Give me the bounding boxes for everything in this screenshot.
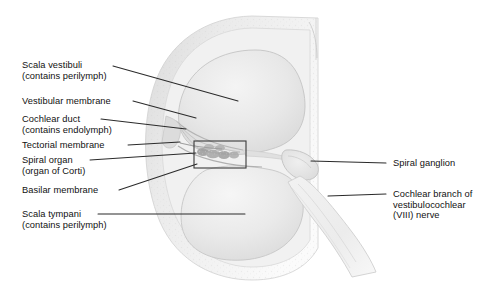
leader-spiral-ganglion <box>311 161 386 163</box>
label-line: Cochlear duct <box>22 114 112 125</box>
label-line: Cochlear branch of <box>393 189 472 200</box>
cochlea-cross-section-figure: Scala vestibuli(contains perilymph)Vesti… <box>0 0 499 293</box>
label-spiral-organ: Spiral organ(organ of Corti) <box>22 155 85 176</box>
leader-cochlear-branch-nerve <box>328 194 386 196</box>
label-cochlear-branch-nerve: Cochlear branch ofvestibulocochlear(VIII… <box>393 189 472 221</box>
label-line: Basilar membrane <box>22 185 98 196</box>
label-line: (VIII) nerve <box>393 210 472 221</box>
label-line: Scala tympani <box>22 209 107 220</box>
label-spiral-ganglion: Spiral ganglion <box>393 158 455 169</box>
label-line: Scala vestibuli <box>22 60 107 71</box>
label-line: Tectorial membrane <box>22 140 105 151</box>
label-line: Spiral organ <box>22 155 85 166</box>
label-line: (contains perilymph) <box>22 220 107 231</box>
label-line: (contains endolymph) <box>22 125 112 136</box>
label-line: Vestibular membrane <box>22 96 111 107</box>
label-line: (organ of Corti) <box>22 166 85 177</box>
label-tectorial-membrane: Tectorial membrane <box>22 140 105 151</box>
label-scala-vestibuli: Scala vestibuli(contains perilymph) <box>22 60 107 81</box>
label-basilar-membrane: Basilar membrane <box>22 185 98 196</box>
label-scala-tympani: Scala tympani(contains perilymph) <box>22 209 107 230</box>
label-line: (contains perilymph) <box>22 71 107 82</box>
label-cochlear-duct: Cochlear duct(contains endolymph) <box>22 114 112 135</box>
label-line: vestibulocochlear <box>393 200 472 211</box>
label-line: Spiral ganglion <box>393 158 455 169</box>
label-vestibular-membrane: Vestibular membrane <box>22 96 111 107</box>
